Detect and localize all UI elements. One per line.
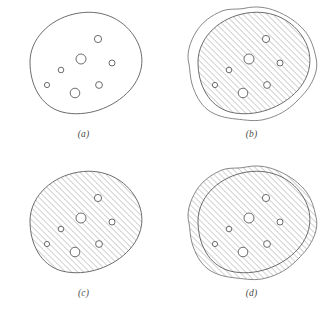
hole-6 xyxy=(96,82,103,89)
panel-d-drawing xyxy=(168,159,335,289)
set-a-shape xyxy=(30,12,142,113)
panel-b-drawing xyxy=(168,0,335,130)
hole-7 xyxy=(70,88,80,98)
panel-d: (d) xyxy=(168,159,335,318)
hole-1 xyxy=(94,35,101,42)
panel-label-d: (d) xyxy=(168,287,335,299)
panel-c: (c) xyxy=(0,159,167,318)
hole-3 xyxy=(109,60,115,66)
panel-a-drawing xyxy=(0,0,167,130)
panel-label-b: (b) xyxy=(168,128,335,140)
hole-group xyxy=(44,35,115,97)
panel-c-drawing xyxy=(0,159,167,289)
panel-label-a: (a) xyxy=(0,128,167,140)
panel-b: (b) xyxy=(168,0,335,159)
hole-5 xyxy=(44,82,49,87)
hole-4 xyxy=(58,67,64,73)
panel-label-c: (c) xyxy=(0,287,167,299)
hole-2 xyxy=(76,54,86,64)
set-boundary-outline xyxy=(30,12,142,113)
figure-root: (a) (b) xyxy=(0,0,335,318)
panel-a: (a) xyxy=(0,0,167,159)
